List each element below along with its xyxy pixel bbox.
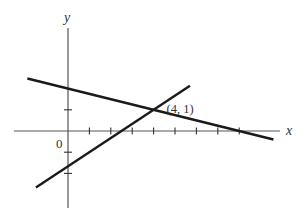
origin-label: 0 bbox=[56, 136, 63, 151]
lines bbox=[27, 79, 273, 188]
chart: x y 0 (4, 1) bbox=[0, 0, 308, 213]
x-axis-label: x bbox=[285, 123, 293, 138]
intersection-label: (4, 1) bbox=[167, 102, 194, 116]
ticks bbox=[64, 110, 239, 174]
axes bbox=[14, 28, 280, 208]
series-line-1 bbox=[27, 79, 273, 140]
y-axis-label: y bbox=[62, 10, 71, 25]
